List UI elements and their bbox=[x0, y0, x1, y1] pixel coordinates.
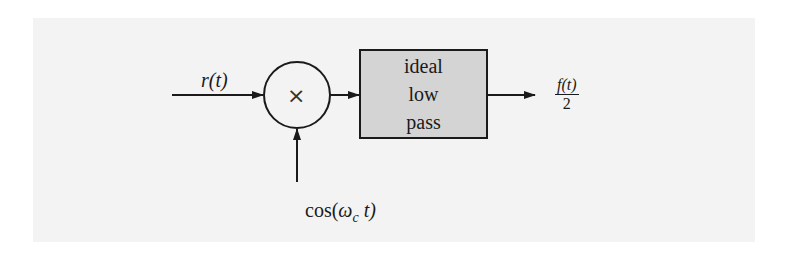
input-label: r(t) bbox=[201, 70, 228, 90]
filter-label-line: ideal bbox=[404, 52, 443, 80]
carrier-arg: t) bbox=[359, 199, 376, 221]
carrier-omega: ω bbox=[338, 199, 352, 221]
filter-label-line: pass bbox=[406, 108, 440, 136]
carrier-func: cos( bbox=[305, 199, 338, 221]
output-label: f(t) 2 bbox=[555, 76, 579, 113]
filter-label-line: low bbox=[409, 80, 439, 108]
output-numerator: f(t) bbox=[555, 76, 579, 95]
multiply-icon: × bbox=[287, 83, 305, 108]
carrier-label: cos(ωc t) bbox=[305, 200, 376, 225]
filter-label: ideal low pass bbox=[360, 50, 487, 138]
output-denominator: 2 bbox=[563, 95, 571, 113]
